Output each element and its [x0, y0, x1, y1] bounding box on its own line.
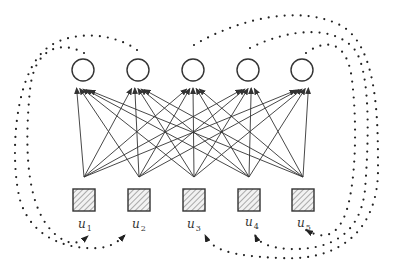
label-u4: u4: [245, 215, 259, 231]
edge-u5-to-h1: [89, 90, 303, 177]
hidden-node-h2: [127, 59, 149, 81]
feedback-loop-h3-to-u3: [194, 15, 378, 258]
edge-u2-to-h4: [139, 89, 245, 177]
input-node-u1: [73, 189, 95, 211]
label-u3: u3: [187, 217, 201, 233]
neural-network-diagram: u1u2u3u4u5: [0, 0, 394, 274]
input-node-u2: [128, 189, 150, 211]
edge-u3-to-h5: [194, 89, 302, 177]
input-labels: u1u2u3u4u5: [78, 215, 311, 233]
hidden-node-h3: [182, 59, 204, 81]
input-node-u4: [238, 189, 260, 211]
edge-u3-to-h4: [194, 89, 248, 177]
connection-edges: [77, 88, 309, 177]
hidden-nodes: [72, 59, 313, 81]
input-node-u5: [292, 189, 314, 211]
label-u5: u5: [297, 216, 311, 232]
hidden-node-h1: [72, 59, 94, 81]
label-u2: u2: [132, 217, 146, 233]
input-nodes: [73, 189, 314, 211]
input-node-u3: [183, 189, 205, 211]
hidden-node-h4: [237, 59, 259, 81]
hidden-node-h5: [291, 59, 313, 81]
edge-u5-to-h5: [303, 88, 308, 177]
edge-u1-to-h1: [77, 88, 84, 177]
feedback-loops: [15, 15, 378, 258]
label-u1: u1: [78, 217, 92, 233]
edge-u1-to-h5: [84, 90, 296, 177]
